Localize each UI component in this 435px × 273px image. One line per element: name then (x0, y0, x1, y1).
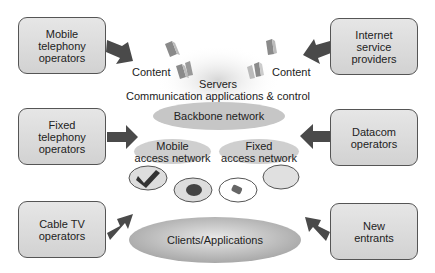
mouse-icon (186, 184, 202, 196)
box-datacom-operators: Datacom operators (330, 109, 418, 166)
arrow-new-entrants (305, 217, 330, 241)
clients-applications: Clients/Applications (129, 217, 301, 263)
arrow-isp (303, 39, 331, 64)
empty-device (263, 165, 299, 189)
mobile-access-network: Mobile access network (134, 139, 211, 164)
content-label-right: Content (272, 66, 311, 78)
servers-subtitle: Communication applications & control (118, 90, 318, 102)
box-mobile-telephony-operators: Mobile telephony operators (18, 17, 106, 74)
arrow-datacom (300, 124, 330, 149)
content-label-left: Content (132, 66, 171, 78)
backbone-network: Backbone network (153, 102, 285, 130)
servers-label: Servers (118, 78, 318, 90)
arrow-fixed-telephony (107, 125, 138, 149)
arrow-mobile-telephony (106, 40, 133, 64)
device-ellipses (129, 165, 299, 202)
box-cable-tv-operators: Cable TV operators (18, 201, 106, 258)
box-internet-service-providers: Internet service providers (330, 18, 418, 75)
box-fixed-telephony-operators: Fixed telephony operators (18, 108, 106, 165)
box-new-entrants: New entrants (330, 203, 418, 260)
fixed-access-network: Fixed access network (219, 139, 299, 164)
server-icon (266, 39, 277, 55)
